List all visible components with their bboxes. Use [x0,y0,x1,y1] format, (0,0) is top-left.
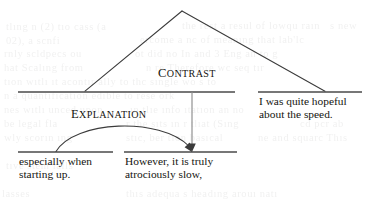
segment-text-seg-2-line-1: However, it is truly [125,155,213,168]
relation-label-explanation-rest: XPLANATION [79,109,146,120]
explanation-satellite-arc [56,126,189,151]
segment-text-seg-1-line-1: especially when [19,155,92,168]
relation-label-contrast-initial: C [158,66,167,80]
relation-label-explanation-initial: E [71,107,79,121]
segment-text-seg-2: However, it is truly atrociously slow, [125,155,213,181]
relation-label-contrast: CONTRAST [158,66,216,81]
segment-text-seg-3-line-1: I was quite hopeful [259,95,347,108]
relation-label-contrast-rest: ONTRAST [167,68,216,79]
segment-text-seg-1: especially when starting up. [19,155,92,181]
segment-text-seg-2-line-2: atrociously slow, [125,168,213,181]
rst-diagram-page: tlıng n (2) tıo cass (athe rest a resul … [0,0,378,200]
segment-text-seg-1-line-2: starting up. [19,168,92,181]
segment-text-seg-3-line-2: about the speed. [259,108,347,121]
segment-text-seg-3: I was quite hopeful about the speed. [259,95,347,121]
relation-label-explanation: EXPLANATION [71,107,146,122]
